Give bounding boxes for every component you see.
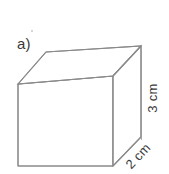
- height-dimension: 3 cm: [141, 72, 163, 124]
- cube-front-face: [18, 76, 113, 166]
- depth-dimension-label: 2 cm: [123, 141, 153, 171]
- depth-dimension: 2 cm: [114, 140, 162, 172]
- part-label: a): [17, 36, 31, 51]
- cube-figure: a) 3 cm 2 cm: [0, 0, 169, 174]
- scan-speck: [31, 30, 33, 32]
- height-dimension-label: 3 cm: [146, 83, 159, 112]
